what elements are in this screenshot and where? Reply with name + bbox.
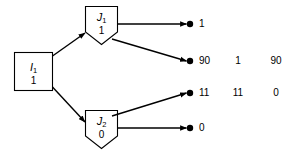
terminal-label-90: 90 [199,56,210,66]
tree-graphics-layer [0,0,298,156]
node-I1-shape [15,53,53,91]
edge-I1-to-J1 [53,33,86,56]
decision-tree-diagram: I1 1 J1 1 J2 0 1 90 11 0 1 90 11 0 [0,0,298,156]
column1-value-row-11: 11 [228,88,248,98]
column2-value-row-90: 90 [265,56,287,66]
terminal-dot-90 [187,58,193,64]
edge-J1-to-terminal-90 [112,39,187,61]
terminal-dot-1 [187,21,193,27]
terminal-dot-0 [187,125,193,131]
terminal-label-1: 1 [199,19,205,29]
terminal-label-0: 0 [199,123,205,133]
terminal-dot-11 [187,90,193,96]
terminal-label-11: 11 [199,88,209,98]
column1-value-row-90: 1 [228,56,248,66]
edge-J2-to-terminal-11 [112,93,187,116]
column2-value-row-11: 0 [265,88,287,98]
edge-I1-to-J2 [53,87,86,122]
